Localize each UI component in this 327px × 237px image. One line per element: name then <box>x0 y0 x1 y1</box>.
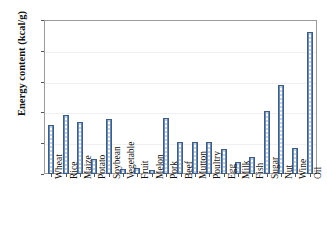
bars-layer <box>44 20 317 174</box>
x-tick-label: Pork <box>170 161 180 179</box>
bar-slot <box>145 20 159 174</box>
bar-slot <box>274 20 288 174</box>
bar <box>307 32 313 174</box>
bar-slot <box>260 20 274 174</box>
bar-slot <box>303 20 317 174</box>
bar-slot <box>173 20 187 174</box>
x-tick-label: Rice <box>70 162 80 179</box>
x-tick-label: Potato <box>98 155 108 179</box>
bar-slot <box>231 20 245 174</box>
x-tick-label: Fruit <box>141 161 151 179</box>
x-tick-label: Wine <box>299 159 309 179</box>
x-tick-label: Mutton <box>199 151 209 179</box>
x-tick-label: Sugar <box>271 157 281 179</box>
x-tick-mark <box>238 174 239 177</box>
y-axis-title: Energy content (kcal/g) <box>16 0 27 139</box>
x-tick-mark <box>51 174 52 177</box>
x-tick-label: Poultry <box>213 151 223 179</box>
x-tick-mark <box>310 174 311 177</box>
x-tick-label: Beef <box>185 161 195 179</box>
x-tick-label: Oil <box>314 167 324 179</box>
bar-slot <box>288 20 302 174</box>
x-tick-mark <box>80 174 81 177</box>
x-tick-mark <box>166 174 167 177</box>
x-tick-mark <box>137 174 138 177</box>
bar-slot <box>159 20 173 174</box>
x-tick-mark <box>181 174 182 177</box>
bar-slot <box>58 20 72 174</box>
x-tick-mark <box>252 174 253 177</box>
x-tick-mark <box>267 174 268 177</box>
x-tick-mark <box>109 174 110 177</box>
x-tick-label: Vegetable <box>127 142 137 179</box>
bar-slot <box>245 20 259 174</box>
y-tick-mark <box>41 174 44 175</box>
x-tick-label: Fish <box>256 163 266 179</box>
bar-slot <box>44 20 58 174</box>
bar-slot <box>73 20 87 174</box>
x-tick-label: Melon <box>156 154 166 179</box>
x-tick-mark <box>152 174 153 177</box>
x-tick-mark <box>94 174 95 177</box>
x-tick-label: Nut <box>285 165 295 179</box>
x-tick-mark <box>281 174 282 177</box>
x-tick-mark <box>195 174 196 177</box>
x-tick-mark <box>295 174 296 177</box>
bar-slot <box>87 20 101 174</box>
x-tick-label: Soybean <box>113 146 123 179</box>
x-tick-label: Milk <box>242 161 252 179</box>
x-tick-mark <box>66 174 67 177</box>
bar-chart: Energy content (kcal/g) 0246810 WheatRic… <box>0 0 327 237</box>
x-tick-mark <box>123 174 124 177</box>
x-tick-mark <box>209 174 210 177</box>
x-tick-label: Wheat <box>55 154 65 179</box>
x-tick-mark <box>224 174 225 177</box>
x-tick-label: Maize <box>84 155 94 179</box>
x-tick-label: Egg <box>228 164 238 179</box>
